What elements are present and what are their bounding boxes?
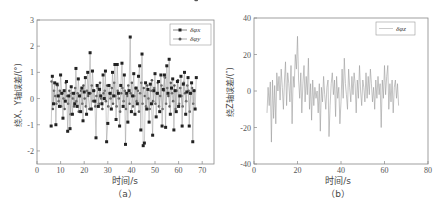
svg-text:70: 70 [198, 166, 206, 175]
svg-text:1: 1 [30, 68, 34, 77]
svg-text:60: 60 [175, 166, 183, 175]
svg-text:0: 0 [247, 87, 251, 96]
chart-panel-a: 010203040506070-2-10123 δφx δφy 时间/s （a）… [0, 0, 221, 206]
chart-b-plot-area [267, 36, 399, 142]
chart-a-xlabel: 时间/s [112, 175, 138, 186]
svg-text:-20: -20 [240, 124, 251, 133]
svg-text:20: 20 [243, 51, 251, 60]
chart-b-frame [254, 18, 428, 164]
chart-panel-b: 020406080-40-2002040 δφz 时间/s （b） 绕Z轴误差/… [221, 0, 442, 206]
svg-text:40: 40 [243, 14, 251, 23]
chart-b-xlabel: 时间/s [325, 175, 351, 186]
svg-text:3: 3 [30, 16, 34, 25]
svg-text:40: 40 [337, 166, 345, 175]
chart-b-caption: （b） [326, 189, 350, 199]
svg-text:2: 2 [30, 42, 34, 51]
svg-text:20: 20 [80, 166, 88, 175]
legend-item-dphiz: δφz [396, 25, 406, 33]
square-marker-icon [179, 29, 182, 32]
chart-a-legend: δφx δφy [170, 24, 211, 45]
svg-text:50: 50 [151, 166, 159, 175]
circle-marker-icon [179, 38, 182, 41]
svg-text:40: 40 [127, 166, 135, 175]
chart-a-plot-area [50, 0, 198, 147]
chart-a-ylabel: 绕X、Y轴误差/(°) [13, 63, 23, 126]
svg-text:-40: -40 [240, 160, 251, 169]
svg-text:0: 0 [30, 95, 34, 104]
chart-b-svg: 020406080-40-2002040 δφz 时间/s （b） 绕Z轴误差/… [221, 0, 442, 206]
chart-a-svg: 010203040506070-2-10123 δφx δφy 时间/s （a）… [0, 0, 221, 206]
chart-b-legend: δφz [376, 22, 415, 35]
legend-item-dphix: δφx [190, 26, 201, 34]
legend-item-dphiy: δφy [190, 35, 201, 43]
svg-text:0: 0 [252, 166, 256, 175]
chart-a-caption: （a） [113, 189, 137, 199]
svg-text:10: 10 [57, 166, 65, 175]
svg-text:0: 0 [35, 166, 39, 175]
svg-text:60: 60 [381, 166, 389, 175]
chart-b-ylabel: 绕Z轴误差/(″) [225, 67, 235, 116]
svg-text:80: 80 [424, 166, 432, 175]
svg-text:30: 30 [104, 166, 112, 175]
svg-text:20: 20 [294, 166, 302, 175]
svg-text:-2: -2 [27, 147, 34, 156]
svg-text:-1: -1 [27, 121, 34, 130]
